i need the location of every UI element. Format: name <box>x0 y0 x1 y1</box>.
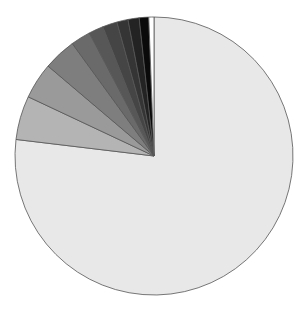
pie-chart <box>0 0 303 313</box>
